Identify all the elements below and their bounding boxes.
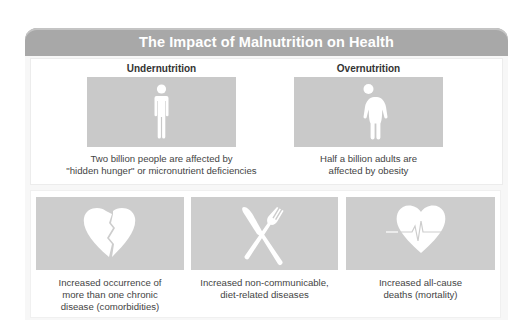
caption-line: Increased occurrence of <box>36 277 184 289</box>
title-banner: The Impact of Malnutrition on Health <box>25 28 508 56</box>
mortality-caption: Increased all-cause deaths (mortality) <box>346 277 495 301</box>
caption-line: deaths (mortality) <box>346 289 495 301</box>
overnutrition-heading: Overnutrition <box>294 63 443 74</box>
caption-line: Increased all-cause <box>346 277 495 289</box>
caption-line: Increased non-communicable, <box>184 277 345 289</box>
caption-line: diet-related diseases <box>184 289 345 301</box>
diagram-title: The Impact of Malnutrition on Health <box>139 34 394 50</box>
obese-person-icon <box>294 77 443 147</box>
diet-disease-image <box>191 197 338 270</box>
undernutrition-image <box>87 77 236 147</box>
overnutrition-image <box>294 77 443 147</box>
mortality-image <box>346 197 495 270</box>
heart-pulse-icon <box>346 197 495 270</box>
broken-heart-icon <box>36 197 184 270</box>
caption-line: more than one chronic <box>36 289 184 301</box>
thin-person-icon <box>87 77 236 147</box>
caption-line: disease (comorbidities) <box>36 301 184 313</box>
undernutrition-caption: Two billion people are affected by "hidd… <box>60 153 263 177</box>
overnutrition-caption: Half a billion adults are affected by ob… <box>280 153 457 177</box>
caption-line: Two billion people are affected by <box>60 153 263 165</box>
comorbidities-caption: Increased occurrence of more than one ch… <box>36 277 184 313</box>
undernutrition-heading: Undernutrition <box>87 63 236 74</box>
caption-line: "hidden hunger" or micronutrient deficie… <box>60 165 263 177</box>
diet-disease-caption: Increased non-communicable, diet-related… <box>184 277 345 301</box>
caption-line: affected by obesity <box>280 165 457 177</box>
knife-fork-icon <box>191 197 338 270</box>
caption-line: Half a billion adults are <box>280 153 457 165</box>
comorbidities-image <box>36 197 184 270</box>
